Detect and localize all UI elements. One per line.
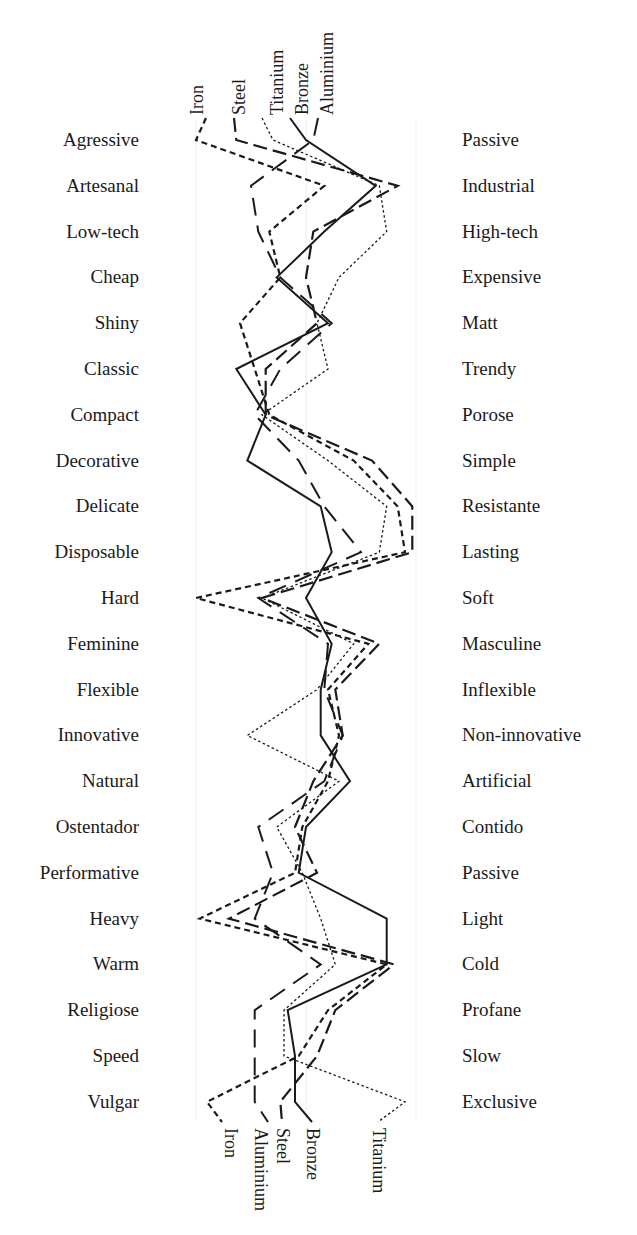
right-label: Light	[462, 909, 503, 929]
series-line-bronze	[236, 118, 386, 1122]
right-label: Contido	[462, 817, 523, 837]
right-label: Matt	[462, 313, 498, 333]
left-label: Warm	[93, 954, 139, 974]
left-label: Heavy	[89, 909, 139, 929]
bottom-material-label: Steel	[274, 1128, 292, 1164]
right-label: Expensive	[462, 267, 541, 287]
left-label: Low-tech	[66, 222, 139, 242]
top-material-label: Titanium	[268, 50, 286, 115]
series-line-titanium	[247, 118, 405, 1122]
left-label: Hard	[101, 588, 139, 608]
left-label: Feminine	[67, 634, 139, 654]
left-label: Religiose	[67, 1000, 139, 1020]
left-label: Vulgar	[87, 1092, 139, 1112]
left-label: Ostentador	[56, 817, 139, 837]
right-label: Industrial	[462, 176, 535, 196]
right-label: Trendy	[462, 359, 516, 379]
series-line-steel	[229, 118, 412, 1122]
bottom-material-label: Iron	[222, 1128, 240, 1158]
right-label: High-tech	[462, 222, 538, 242]
left-label: Cheap	[90, 267, 139, 287]
bottom-material-label: Bronze	[304, 1128, 322, 1180]
left-label: Classic	[84, 359, 139, 379]
right-label: Lasting	[462, 542, 519, 562]
top-material-label: Iron	[188, 85, 206, 115]
top-material-label: Aluminium	[318, 32, 336, 115]
left-label: Innovative	[58, 725, 139, 745]
bottom-material-label: Titanium	[370, 1128, 388, 1193]
right-label: Artificial	[462, 771, 532, 791]
left-label: Disposable	[55, 542, 139, 562]
right-label: Slow	[462, 1046, 501, 1066]
right-label: Soft	[462, 588, 494, 608]
semantic-differential-chart: AgressiveArtesanalLow-techCheapShinyClas…	[0, 0, 637, 1235]
left-label: Compact	[70, 405, 139, 425]
right-label: Porose	[462, 405, 514, 425]
left-label: Shiny	[95, 313, 139, 333]
right-label: Inflexible	[462, 680, 536, 700]
right-label: Exclusive	[462, 1092, 537, 1112]
left-label: Agressive	[63, 130, 139, 150]
left-label: Speed	[93, 1046, 139, 1066]
left-label: Flexible	[77, 680, 139, 700]
left-label: Artesanal	[66, 176, 139, 196]
left-label: Performative	[40, 863, 139, 883]
left-label: Delicate	[76, 496, 139, 516]
right-label: Passive	[462, 130, 519, 150]
right-label: Resistante	[462, 496, 540, 516]
right-label: Cold	[462, 954, 499, 974]
bottom-material-label: Aluminium	[252, 1128, 270, 1211]
right-label: Masculine	[462, 634, 541, 654]
right-label: Passive	[462, 863, 519, 883]
left-label: Decorative	[56, 451, 139, 471]
top-material-label: Steel	[230, 79, 248, 115]
right-label: Profane	[462, 1000, 521, 1020]
right-label: Non-innovative	[462, 725, 581, 745]
top-material-label: Bronze	[293, 63, 311, 115]
left-label: Natural	[82, 771, 139, 791]
right-label: Simple	[462, 451, 516, 471]
